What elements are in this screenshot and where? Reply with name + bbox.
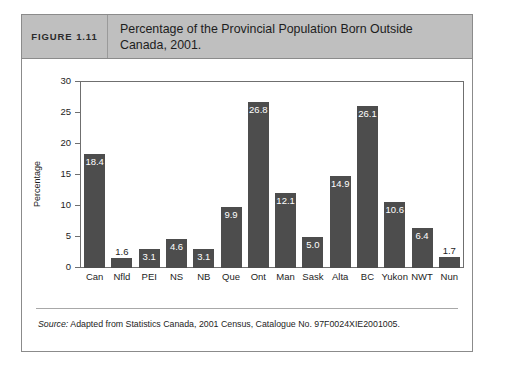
- x-axis-label: Sask: [299, 271, 326, 282]
- bar[interactable]: 6.4: [412, 228, 433, 268]
- y-tick-label: 5: [66, 230, 71, 241]
- bar-column[interactable]: 1.6: [108, 82, 135, 268]
- bar-value-label: 10.6: [385, 204, 404, 215]
- bar-value-label: 5.0: [306, 239, 319, 250]
- bar-value-label: 1.6: [115, 246, 128, 257]
- bar-value-label: 3.1: [143, 251, 156, 262]
- x-axis-label: BC: [354, 271, 381, 282]
- x-axis-label: Yukon: [381, 271, 408, 282]
- bar[interactable]: 26.8: [248, 102, 269, 268]
- bar-column[interactable]: 3.1: [190, 82, 217, 268]
- bar-column[interactable]: 10.6: [381, 82, 408, 268]
- x-axis-label: NB: [190, 271, 217, 282]
- figure-title-cell: Percentage of the Provincial Population …: [108, 15, 472, 58]
- bar-column[interactable]: 6.4: [408, 82, 435, 268]
- x-axis-label: NWT: [408, 271, 435, 282]
- y-axis-ticks: 051015202530: [22, 81, 80, 268]
- chart-plot-region: Percentage 051015202530 18.41.63.14.63.1…: [22, 59, 472, 308]
- x-axis-label: Nfld: [108, 271, 135, 282]
- bar-column[interactable]: 3.1: [136, 82, 163, 268]
- bar-column[interactable]: 26.1: [354, 82, 381, 268]
- bar-value-label: 18.4: [85, 156, 104, 167]
- bar-series: 18.41.63.14.63.19.926.812.15.014.926.110…: [81, 82, 463, 268]
- bar-value-label: 12.1: [276, 195, 295, 206]
- figure-number-label: FIGURE 1.11: [31, 31, 97, 42]
- bar[interactable]: 12.1: [275, 193, 296, 268]
- y-tick-label: 20: [60, 137, 71, 148]
- bar[interactable]: 5.0: [302, 237, 323, 268]
- bar-value-label: 26.8: [249, 104, 268, 115]
- y-tick-label: 0: [66, 261, 71, 272]
- bar[interactable]: [439, 257, 460, 268]
- y-tick-label: 25: [60, 106, 71, 117]
- source-note: Source: Adapted from Statistics Canada, …: [38, 318, 458, 330]
- bar-column[interactable]: 1.7: [436, 82, 463, 268]
- bar-value-label: 9.9: [224, 209, 237, 220]
- x-axis-label: NS: [163, 271, 190, 282]
- figure-number-cell: FIGURE 1.11: [22, 15, 108, 58]
- x-axis-label: Alta: [327, 271, 354, 282]
- bar[interactable]: [111, 258, 132, 268]
- x-axis-label: Que: [217, 271, 244, 282]
- x-axis-label: Can: [81, 271, 108, 282]
- bar-value-label: 4.6: [170, 241, 183, 252]
- x-axis-label: Nun: [436, 271, 463, 282]
- x-axis-labels: CanNfldPEINSNBQueOntManSaskAltaBCYukonNW…: [81, 271, 463, 282]
- y-tick-label: 15: [60, 168, 71, 179]
- figure-header: FIGURE 1.11 Percentage of the Provincial…: [22, 15, 472, 59]
- bar-value-label: 26.1: [358, 108, 377, 119]
- bar[interactable]: 3.1: [193, 249, 214, 268]
- y-tick-label: 10: [60, 199, 71, 210]
- bar[interactable]: 14.9: [330, 176, 351, 268]
- figure-container: FIGURE 1.11 Percentage of the Provincial…: [21, 14, 473, 352]
- bar-value-label: 14.9: [331, 178, 350, 189]
- bar-value-label: 3.1: [197, 251, 210, 262]
- bar[interactable]: 10.6: [384, 202, 405, 268]
- bar-column[interactable]: 14.9: [327, 82, 354, 268]
- bar-column[interactable]: 26.8: [245, 82, 272, 268]
- bar[interactable]: 9.9: [221, 207, 242, 268]
- x-axis-label: Ont: [245, 271, 272, 282]
- bar[interactable]: 18.4: [84, 154, 105, 268]
- bar[interactable]: 4.6: [166, 239, 187, 268]
- bar-column[interactable]: 9.9: [217, 82, 244, 268]
- bar-column[interactable]: 12.1: [272, 82, 299, 268]
- bar-value-label: 1.7: [443, 245, 456, 256]
- bar[interactable]: 26.1: [357, 106, 378, 268]
- bar-column[interactable]: 4.6: [163, 82, 190, 268]
- y-tick-label: 30: [60, 75, 71, 86]
- source-prefix: Source:: [38, 319, 68, 329]
- bar-column[interactable]: 5.0: [299, 82, 326, 268]
- x-axis-label: Man: [272, 271, 299, 282]
- bar-value-label: 6.4: [415, 230, 428, 241]
- bar[interactable]: 3.1: [139, 249, 160, 268]
- source-divider: [36, 308, 458, 309]
- figure-title: Percentage of the Provincial Population …: [120, 21, 462, 53]
- source-text: Adapted from Statistics Canada, 2001 Cen…: [68, 319, 400, 329]
- x-axis-label: PEI: [136, 271, 163, 282]
- bar-column[interactable]: 18.4: [81, 82, 108, 268]
